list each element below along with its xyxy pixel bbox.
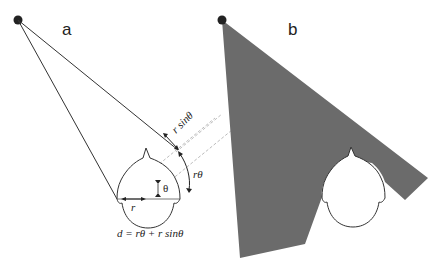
panel-b: b xyxy=(218,16,429,259)
ray-tangent xyxy=(18,20,178,150)
panel-a-label: a xyxy=(62,20,72,39)
shadow-cone xyxy=(222,20,428,258)
label-r-theta: rθ xyxy=(193,168,203,180)
formula: d = rθ + r sinθ xyxy=(117,227,184,239)
label-r: r xyxy=(131,201,136,213)
panel-b-label: b xyxy=(288,20,297,39)
sound-source-dot-b xyxy=(218,16,227,25)
label-r-sin-theta: r sinθ xyxy=(169,109,196,136)
head-a xyxy=(117,148,180,228)
ray-to-near-ear xyxy=(18,20,117,199)
r-theta-arc-arrow xyxy=(178,151,192,193)
label-theta: θ xyxy=(163,182,168,194)
panel-a: a r θ xyxy=(14,16,233,240)
diagram-canvas: a r θ xyxy=(0,0,445,270)
